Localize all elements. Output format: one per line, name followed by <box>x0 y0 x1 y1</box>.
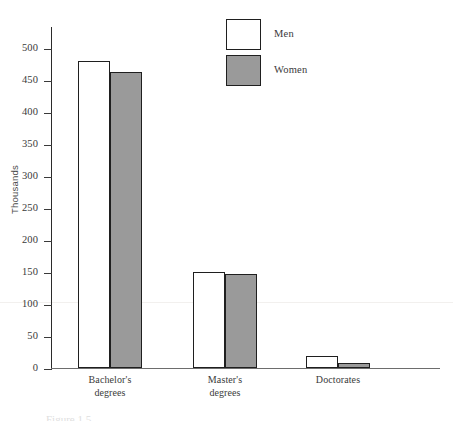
y-tick-label-350: 350 <box>0 139 38 149</box>
bar-men-2 <box>306 356 338 369</box>
y-tick-label-400: 400 <box>0 107 38 117</box>
legend-label-men: Men <box>274 28 294 39</box>
y-tick-100 <box>44 305 52 306</box>
category-label-2: Doctorates <box>278 374 398 387</box>
y-axis-line <box>51 27 52 369</box>
category-label-line: Master's <box>165 374 285 387</box>
y-tick-50 <box>44 337 52 338</box>
y-tick-label-500: 500 <box>0 43 38 53</box>
y-tick-0 <box>44 369 52 370</box>
y-tick-450 <box>44 81 52 82</box>
y-axis-title: Thousands <box>9 150 20 230</box>
y-tick-label-0: 0 <box>0 363 38 373</box>
category-label-0: Bachelor'sdegrees <box>50 374 170 399</box>
category-label-line: degrees <box>165 387 285 400</box>
y-tick-label-150: 150 <box>0 267 38 277</box>
category-label-line: degrees <box>50 387 170 400</box>
bar-women-1 <box>225 274 257 368</box>
y-tick-label-100: 100 <box>0 299 38 309</box>
y-tick-label-450: 450 <box>0 75 38 85</box>
y-tick-400 <box>44 113 52 114</box>
bar-men-1 <box>193 272 225 369</box>
legend-swatch-women-icon <box>226 55 261 86</box>
figure-caption: Figure 1.5 <box>46 413 426 421</box>
y-tick-250 <box>44 209 52 210</box>
category-label-line: Bachelor's <box>50 374 170 387</box>
bar-men-0 <box>78 61 110 368</box>
bar-women-0 <box>110 72 142 369</box>
y-tick-500 <box>44 49 52 50</box>
category-label-line: Doctorates <box>278 374 398 387</box>
y-tick-300 <box>44 177 52 178</box>
bar-chart-figure: 050100150200250300350400450500 Thousands… <box>0 0 453 421</box>
bar-women-2 <box>338 363 370 368</box>
y-tick-label-50: 50 <box>0 331 38 341</box>
y-tick-350 <box>44 145 52 146</box>
legend-label-women: Women <box>274 64 307 75</box>
y-tick-200 <box>44 241 52 242</box>
legend-swatch-men-icon <box>226 19 261 50</box>
plot-area: 050100150200250300350400450500 Thousands… <box>0 0 453 421</box>
y-tick-150 <box>44 273 52 274</box>
y-tick-label-200: 200 <box>0 235 38 245</box>
category-label-1: Master'sdegrees <box>165 374 285 399</box>
